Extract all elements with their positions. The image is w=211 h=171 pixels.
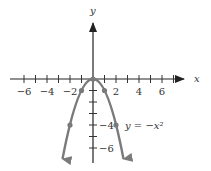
x-tick-label: −4 bbox=[40, 86, 55, 97]
point-marker bbox=[113, 122, 118, 127]
x-axis-label: x bbox=[194, 73, 200, 84]
point-marker bbox=[79, 88, 84, 93]
y-axis-label: y bbox=[89, 5, 96, 16]
y-tick-labels: −4 −6 bbox=[99, 120, 114, 154]
y-tick-label: −4 bbox=[99, 120, 114, 131]
point-marker bbox=[102, 88, 107, 93]
x-tick-label: −6 bbox=[17, 86, 32, 97]
x-axis: x bbox=[10, 73, 200, 84]
equation-label: y = −x² bbox=[124, 120, 163, 131]
parabola-graph: x y −6 −4 −2 2 4 6 −4 −6 y bbox=[0, 0, 211, 171]
x-tick-label: 6 bbox=[159, 86, 165, 97]
point-marker bbox=[90, 76, 95, 81]
x-tick-label: 2 bbox=[113, 86, 119, 97]
x-tick-labels: −6 −4 −2 2 4 6 bbox=[17, 86, 166, 97]
x-tick-label: 4 bbox=[136, 86, 142, 97]
x-tick-label: −2 bbox=[63, 86, 78, 97]
point-marker bbox=[67, 122, 72, 127]
y-axis: y bbox=[89, 5, 97, 163]
y-tick-label: −6 bbox=[99, 143, 114, 154]
